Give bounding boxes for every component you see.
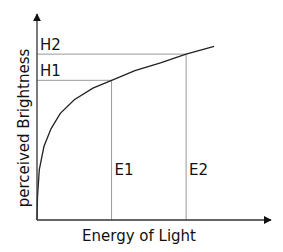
y-marker-label-h1: H1 (40, 62, 61, 80)
y-marker-label-h2: H2 (40, 36, 61, 54)
y-axis-label: perceived Brightness (15, 49, 33, 208)
brightness-chart: H1E1H2E2 Energy of Light perceived Brigh… (0, 0, 283, 252)
x-marker-label-e1: E1 (115, 161, 134, 179)
x-marker-label-e2: E2 (189, 161, 208, 179)
x-axis-label: Energy of Light (82, 227, 196, 245)
brightness-curve (37, 46, 214, 220)
